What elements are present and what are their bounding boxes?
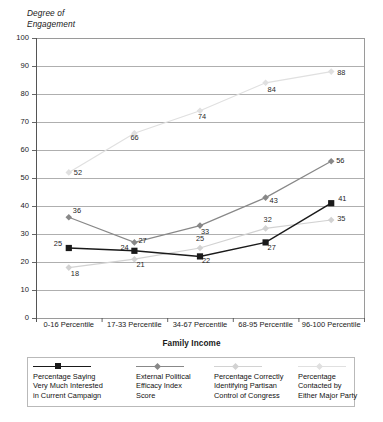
data-label: 52 bbox=[74, 168, 82, 177]
y-axis-tick-0: 0 bbox=[3, 313, 29, 322]
legend-swatch-1 bbox=[136, 362, 210, 371]
data-label: 88 bbox=[337, 68, 345, 77]
chart-legend: Percentage Saying Very Much Interested i… bbox=[27, 357, 355, 407]
data-label: 66 bbox=[130, 133, 138, 142]
y-axis-tick-10: 10 bbox=[3, 285, 29, 294]
data-label: 43 bbox=[270, 196, 278, 205]
y-axis-tick-100: 100 bbox=[3, 33, 29, 42]
data-label: 74 bbox=[198, 112, 206, 121]
data-label: 35 bbox=[337, 214, 345, 223]
data-label: 56 bbox=[336, 156, 344, 165]
legend-marker-diamond-icon bbox=[154, 363, 161, 370]
data-label: 84 bbox=[268, 85, 276, 94]
legend-label-1: External Political Efficacy Index Score bbox=[136, 372, 210, 400]
x-axis-tick-0: 0-16 Percentile bbox=[36, 320, 102, 329]
legend-item-3[interactable]: Percentage Contacted by Either Major Par… bbox=[298, 362, 374, 400]
y-axis-tick-90: 90 bbox=[3, 61, 29, 70]
x-axis-tick-1: 17-33 Percentile bbox=[102, 320, 168, 329]
legend-swatch-3 bbox=[298, 362, 374, 371]
legend-item-1[interactable]: External Political Efficacy Index Score bbox=[136, 362, 210, 400]
data-label: 36 bbox=[73, 206, 81, 215]
legend-item-0[interactable]: Percentage Saying Very Much Interested i… bbox=[33, 362, 131, 400]
y-axis-tick-40: 40 bbox=[3, 201, 29, 210]
y-axis-tick-20: 20 bbox=[3, 257, 29, 266]
data-label: 22 bbox=[202, 256, 210, 265]
x-axis-tick-2: 34-67 Percentile bbox=[167, 320, 233, 329]
data-label: 25 bbox=[54, 239, 62, 248]
legend-marker-diamond-icon bbox=[316, 363, 323, 370]
x-axis-title: Family Income bbox=[0, 339, 383, 348]
y-axis-tick-50: 50 bbox=[3, 173, 29, 182]
legend-marker-diamond-icon bbox=[232, 363, 239, 370]
data-label: 18 bbox=[71, 269, 79, 278]
y-axis-tick-30: 30 bbox=[3, 229, 29, 238]
x-axis-tick-3: 68-95 Percentile bbox=[233, 320, 299, 329]
data-label: 33 bbox=[201, 227, 209, 236]
x-axis-tick-4: 96-100 Percentile bbox=[298, 320, 364, 329]
data-label: 32 bbox=[264, 215, 272, 224]
engagement-line-chart: Degree of Engagement 0102030405060708090… bbox=[0, 0, 383, 422]
data-label: 27 bbox=[138, 236, 146, 245]
legend-line-icon bbox=[33, 366, 91, 367]
legend-swatch-2 bbox=[214, 362, 296, 371]
data-label: 27 bbox=[268, 243, 276, 252]
data-label: 21 bbox=[136, 260, 144, 269]
legend-label-3: Percentage Contacted by Either Major Par… bbox=[298, 372, 374, 400]
legend-label-0: Percentage Saying Very Much Interested i… bbox=[33, 372, 131, 400]
y-axis-tick-60: 60 bbox=[3, 145, 29, 154]
y-axis-tick-80: 80 bbox=[3, 89, 29, 98]
legend-marker-square-icon bbox=[55, 363, 61, 369]
y-axis-tick-70: 70 bbox=[3, 117, 29, 126]
legend-item-2[interactable]: Percentage Correctly Identifying Partisa… bbox=[214, 362, 296, 400]
legend-label-2: Percentage Correctly Identifying Partisa… bbox=[214, 372, 296, 400]
data-label: 24 bbox=[120, 243, 128, 252]
data-label: 41 bbox=[338, 194, 346, 203]
legend-swatch-0 bbox=[33, 362, 131, 371]
